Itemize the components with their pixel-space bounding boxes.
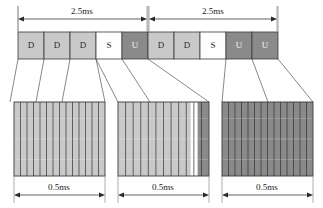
slot-6-downlink[interactable]: D: [148, 32, 174, 59]
top-dimension-1: 2.5ms: [18, 6, 147, 31]
slot-7-downlink[interactable]: D: [174, 32, 200, 59]
slot-4-label: S: [106, 40, 111, 50]
bottom-dimension-2-arrowhead-left: [118, 192, 124, 197]
slot-5-uplink[interactable]: U: [122, 32, 148, 59]
slot-2-label: D: [54, 40, 61, 50]
slot-5-label: U: [132, 40, 139, 50]
slot-row: DDDSUDDSUU: [18, 32, 278, 59]
top-dimension-group: 2.5ms2.5ms: [18, 6, 278, 32]
bottom-dimension-3-arrowhead-right: [307, 192, 313, 197]
slot-8-label: S: [210, 40, 215, 50]
diagram-canvas: 2.5ms2.5ms DDDSUDDSUU 0.5ms0.5ms0.5ms: [0, 0, 323, 208]
slot-1-label: D: [28, 40, 35, 50]
top-dimension-1-arrowhead-right: [141, 16, 147, 21]
bottom-dimension-1-arrowhead-right: [99, 192, 105, 197]
bottom-dimension-2-label: 0.5ms: [152, 182, 174, 192]
bottom-dimension-3-label: 0.5ms: [256, 182, 278, 192]
bottom-dimension-1: 0.5ms: [14, 176, 105, 203]
slot-10-label: U: [262, 40, 269, 50]
tdd-frame-diagram: 2.5ms2.5ms DDDSUDDSUU 0.5ms0.5ms0.5ms: [0, 0, 323, 208]
slot-1-downlink[interactable]: D: [18, 32, 44, 59]
slot-10-uplink[interactable]: U: [252, 32, 278, 59]
bottom-dimension-1-label: 0.5ms: [48, 182, 70, 192]
slot-3-downlink[interactable]: D: [70, 32, 96, 59]
slot-9-label: U: [236, 40, 243, 50]
bottom-dimension-1-arrowhead-left: [14, 192, 20, 197]
detail-boxes-group: [14, 102, 313, 176]
slot-2-downlink[interactable]: D: [44, 32, 70, 59]
leader-lines: [10, 59, 313, 102]
top-dimension-2: 2.5ms: [149, 6, 277, 31]
bottom-dimension-group: 0.5ms0.5ms0.5ms: [14, 176, 313, 203]
top-dimension-1-arrowhead-left: [18, 16, 24, 21]
top-dimension-2-label: 2.5ms: [202, 6, 224, 16]
top-dimension-1-label: 2.5ms: [71, 6, 93, 16]
bottom-dimension-2: 0.5ms: [118, 176, 209, 203]
top-dimension-2-arrowhead-left: [149, 16, 155, 21]
top-dimension-2-arrowhead-right: [271, 16, 277, 21]
slot-4-special[interactable]: S: [96, 32, 122, 59]
slot-9-uplink[interactable]: U: [226, 32, 252, 59]
slot-6-label: D: [158, 40, 165, 50]
bottom-dimension-3: 0.5ms: [222, 176, 313, 203]
slot-8-special[interactable]: S: [200, 32, 226, 59]
slot-3-label: D: [80, 40, 87, 50]
downlink-detail: [14, 102, 105, 176]
bottom-dimension-2-arrowhead-right: [203, 192, 209, 197]
uplink-detail: [222, 102, 313, 176]
bottom-dimension-3-arrowhead-left: [222, 192, 228, 197]
slot-7-label: D: [184, 40, 191, 50]
special-slot-detail: [118, 102, 209, 176]
